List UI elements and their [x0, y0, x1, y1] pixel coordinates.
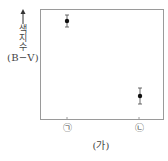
arrow-up-icon [21, 9, 26, 14]
x-tick-label-2: ㉡ [132, 121, 146, 134]
x-tick-label-1: ㉠ [60, 121, 74, 134]
data-point-2 [138, 88, 142, 104]
y-label-char-3: 수 [16, 43, 30, 52]
x-axis-label: (가) [86, 137, 116, 152]
y-label-unit: (B−V) [3, 52, 43, 63]
data-point-1 [65, 15, 69, 27]
